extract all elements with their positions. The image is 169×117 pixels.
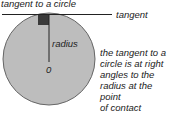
center-label: 0 <box>46 64 51 75</box>
note-line: radius at the point <box>100 80 169 102</box>
note-line: the tangent to a <box>100 47 169 58</box>
right-angle-marker <box>38 15 49 25</box>
note-line: angles to the <box>100 69 169 80</box>
explanation-note: the tangent to a circle is at right angl… <box>100 47 169 113</box>
tangent-label: tangent <box>116 9 148 20</box>
note-line: circle is at right <box>100 58 169 69</box>
radius-label: radius <box>52 38 78 49</box>
note-line: of contact <box>100 102 169 113</box>
